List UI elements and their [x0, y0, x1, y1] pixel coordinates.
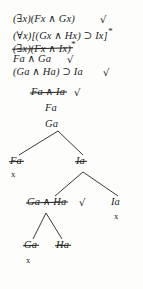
stem-line-4-text: Fa ∧ Ga	[13, 53, 51, 64]
branch-node-ia-right: Ia	[76, 156, 85, 167]
stem-line-1-text: (∃x)(Fx ∧ Gx)	[13, 13, 75, 24]
stem-line-5: (Ga ∧ Ha) ⊃ Ia	[13, 67, 83, 78]
stem-line-2: (∀x)[(Gx ∧ Hx) ⊃ Ix]*	[13, 27, 112, 41]
truth-tree-figure: (∃x)(Fx ∧ Gx) √ (∀x)[(Gx ∧ Hx) ⊃ Ix]* (∃…	[0, 0, 143, 289]
stem-line-5-text: (Ga ∧ Ha) ⊃ Ia	[13, 66, 83, 77]
stem-line-7: Fa	[45, 103, 57, 114]
branch-node-fa-left-close: x	[11, 170, 15, 179]
branch-node-ia-right-text: Ia	[76, 155, 85, 166]
branch-node-ia-leaf-text: Ia	[111, 196, 120, 207]
branch-node-ga-leaf: Ga	[24, 240, 37, 251]
branch-node-ia-leaf-close: x	[114, 212, 118, 221]
branch-node-fa-left-text: Fa	[10, 155, 22, 166]
stem-line-6-check: √	[74, 88, 80, 98]
branch-node-ga-ha: Ga ∧ Ha	[27, 197, 66, 208]
branch-node-fa-left: Fa	[10, 156, 22, 167]
branch-node-ia-leaf: Ia	[111, 197, 120, 208]
stem-line-3-text: (∃x)(Fx ∧ Ix)	[13, 43, 71, 54]
branch-node-ga-leaf-close: x	[26, 256, 30, 265]
stem-line-4-check: √	[67, 55, 73, 65]
stem-line-1: (∃x)(Fx ∧ Gx)	[13, 14, 75, 25]
stem-line-6: Fa ∧ Ia	[31, 87, 65, 98]
stem-line-6-text: Fa ∧ Ia	[31, 86, 65, 97]
stem-line-2-star: *	[108, 26, 113, 36]
stem-line-1-check: √	[100, 15, 106, 25]
branch-node-ga-ha-check: √	[79, 198, 85, 208]
stem-line-8: Ga	[45, 119, 58, 130]
stem-line-3: (∃x)(Fx ∧ Ix)*	[13, 40, 75, 54]
branch-node-ha-leaf-text: Ha	[56, 239, 69, 250]
stem-line-4: Fa ∧ Ga	[13, 54, 51, 65]
stem-line-5-check: √	[103, 68, 109, 78]
branch-node-ga-leaf-text: Ga	[24, 239, 37, 250]
stem-line-8-text: Ga	[45, 118, 58, 129]
branch-node-ha-leaf: Ha	[56, 240, 69, 251]
branch-node-ga-ha-text: Ga ∧ Ha	[27, 196, 66, 207]
stem-line-7-text: Fa	[45, 102, 57, 113]
stem-line-2-text: (∀x)[(Gx ∧ Hx) ⊃ Ix]	[13, 30, 108, 41]
